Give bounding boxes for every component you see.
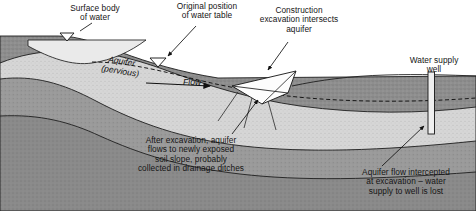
label-flow: Flow <box>183 77 201 87</box>
label-after-excavation: After excavation, aquifer flows to newly… <box>110 136 272 173</box>
diagram-canvas: Surface body of water Original position … <box>0 0 476 211</box>
label-surface-body-of-water: Surface body of water <box>42 4 148 23</box>
label-aquifer-flow-intercepted: Aquifer flow intercepted at excavation –… <box>340 168 472 196</box>
water-supply-well <box>428 72 435 134</box>
leader-original-water-table <box>168 26 196 56</box>
label-water-supply-well: Water supply well <box>396 56 472 75</box>
leader-construction <box>268 42 288 70</box>
label-construction-excavation: Construction excavation intersects aquif… <box>243 6 355 34</box>
leader-surface-water <box>80 23 92 31</box>
